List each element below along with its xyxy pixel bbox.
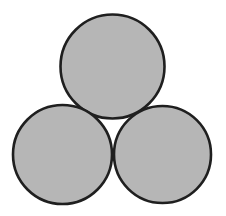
bottom-right-circle	[114, 106, 211, 203]
top-circle	[61, 15, 165, 119]
circles-canvas	[0, 0, 226, 216]
three-circles-figure	[0, 0, 226, 216]
bottom-left-circle	[13, 105, 112, 204]
